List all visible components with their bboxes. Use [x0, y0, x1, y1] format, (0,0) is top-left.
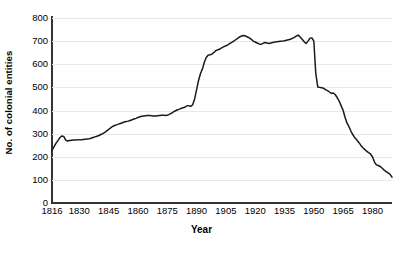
y-tick-label: 800 — [32, 13, 48, 23]
y-tick-label: 400 — [32, 106, 48, 116]
x-axis-tick-labels: 1816183018451860187518901905192019351950… — [0, 205, 403, 221]
x-tick-label: 1980 — [362, 205, 383, 216]
x-tick-label: 1860 — [127, 205, 148, 216]
plot-area — [52, 18, 392, 203]
y-tick-label: 600 — [32, 59, 48, 69]
y-tick-label: 500 — [32, 82, 48, 92]
series-path — [52, 35, 392, 177]
x-tick-label: 1965 — [333, 205, 354, 216]
line-chart: No. of colonial entities 010020030040050… — [0, 0, 403, 253]
y-axis-title: No. of colonial entities — [0, 0, 18, 205]
y-axis-title-text: No. of colonial entities — [4, 51, 15, 155]
x-tick-label: 1950 — [303, 205, 324, 216]
y-tick-label: 700 — [32, 36, 48, 46]
x-tick-label: 1816 — [41, 205, 62, 216]
x-tick-label: 1905 — [215, 205, 236, 216]
x-tick-label: 1920 — [245, 205, 266, 216]
x-tick-label: 1875 — [157, 205, 178, 216]
series-line-colonial-entities — [52, 18, 392, 203]
y-tick-label: 200 — [32, 152, 48, 162]
y-tick-label: 100 — [32, 175, 48, 185]
x-axis-title: Year — [0, 224, 403, 235]
x-tick-label: 1845 — [98, 205, 119, 216]
x-tick-label: 1935 — [274, 205, 295, 216]
x-tick-label: 1890 — [186, 205, 207, 216]
x-tick-label: 1830 — [69, 205, 90, 216]
y-tick-label: 300 — [32, 129, 48, 139]
